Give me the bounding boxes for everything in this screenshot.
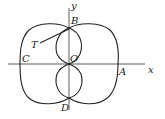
y-axis-label: y	[70, 0, 77, 11]
x-axis-label: x	[148, 64, 154, 75]
point-label-o: O	[70, 53, 78, 64]
point-label-b: B	[70, 15, 78, 26]
point-label-d: D	[60, 102, 69, 113]
point-label-c: C	[22, 53, 30, 64]
tangent-line	[40, 29, 69, 43]
point-label-t: T	[31, 39, 39, 50]
polar-curve-diagram: y B T O C A x D	[0, 0, 165, 119]
point-label-a: A	[118, 66, 126, 77]
